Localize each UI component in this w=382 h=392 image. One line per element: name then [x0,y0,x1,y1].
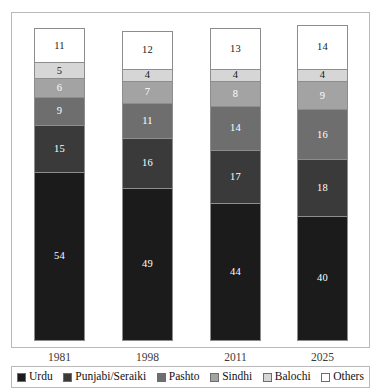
segment-value-label: 6 [57,83,62,94]
bar-segment-urdu[interactable]: 54 [34,172,85,341]
legend-swatch-icon [63,373,72,382]
legend-item-pashto[interactable]: Pashto [157,371,200,383]
segment-value-label: 5 [57,66,62,77]
bar-segment-pashto[interactable]: 16 [297,109,348,159]
bar-segment-others[interactable]: 13 [210,28,261,69]
segment-value-label: 11 [54,41,65,52]
bar-segment-balochi[interactable]: 4 [297,69,348,82]
x-axis-tick-label-2011: 2011 [206,351,266,363]
bar-segment-balochi[interactable]: 4 [210,69,261,82]
segment-value-label: 18 [317,183,328,194]
bar-segment-pashto[interactable]: 14 [210,106,261,150]
segment-value-label: 4 [320,70,325,81]
bar-segment-others[interactable]: 14 [297,25,348,69]
segment-value-label: 15 [54,144,65,155]
legend-swatch-icon [210,373,219,382]
scan-artifact [0,0,382,11]
legend-swatch-icon [321,373,330,382]
bar-segment-sindhi[interactable]: 8 [210,81,261,106]
segment-value-label: 11 [142,116,153,127]
bar-segment-punjabi-seraiki[interactable]: 18 [297,159,348,215]
legend-item-others[interactable]: Others [321,371,364,383]
legend-label: Punjabi/Seraiki [75,371,146,383]
legend-label: Balochi [275,371,311,383]
segment-value-label: 40 [317,273,328,284]
legend-item-balochi[interactable]: Balochi [263,371,311,383]
legend-item-punjabi-seraiki[interactable]: Punjabi/Seraiki [63,371,146,383]
segment-value-label: 17 [230,172,241,183]
segment-value-label: 49 [142,259,153,270]
segment-value-label: 16 [317,130,328,141]
segment-value-label: 4 [233,70,238,81]
bar-segment-balochi[interactable]: 4 [122,69,173,82]
segment-value-label: 54 [54,251,65,262]
segment-value-label: 12 [142,45,153,56]
segment-value-label: 13 [230,44,241,55]
legend-swatch-icon [157,373,166,382]
bar-2025[interactable]: 1449161840 [297,25,348,341]
legend-item-sindhi[interactable]: Sindhi [210,371,252,383]
segment-value-label: 4 [145,70,150,81]
legend-label: Others [333,371,364,383]
bar-segment-sindhi[interactable]: 9 [297,81,348,109]
legend-swatch-icon [17,373,26,382]
bar-segment-balochi[interactable]: 5 [34,62,85,78]
x-axis-tick-label-1998: 1998 [118,351,178,363]
bar-segment-pashto[interactable]: 9 [34,97,85,125]
bar-1998[interactable]: 1247111649 [122,31,173,341]
bar-segment-sindhi[interactable]: 6 [34,78,85,97]
plot-area: 115691554124711164913481417441449161840 [11,12,370,348]
bar-segment-pashto[interactable]: 11 [122,103,173,137]
segment-value-label: 8 [233,89,238,100]
bar-1981[interactable]: 115691554 [34,28,85,341]
bar-segment-punjabi-seraiki[interactable]: 16 [122,138,173,188]
legend-item-urdu[interactable]: Urdu [17,371,53,383]
segment-value-label: 44 [230,267,241,278]
bar-segment-punjabi-seraiki[interactable]: 17 [210,150,261,203]
legend-label: Pashto [169,371,200,383]
bar-segment-urdu[interactable]: 40 [297,216,348,341]
bar-segment-punjabi-seraiki[interactable]: 15 [34,125,85,172]
bar-segment-urdu[interactable]: 44 [210,203,261,341]
segment-value-label: 14 [230,123,241,134]
segment-value-label: 14 [317,42,328,53]
bar-segment-sindhi[interactable]: 7 [122,81,173,103]
segment-value-label: 16 [142,158,153,169]
segment-value-label: 9 [57,106,62,117]
chart-legend: UrduPunjabi/SeraikiPashtoSindhiBalochiOt… [11,366,370,388]
bar-2011[interactable]: 1348141744 [210,28,261,341]
x-axis-tick-label-1981: 1981 [30,351,90,363]
segment-value-label: 9 [320,91,325,102]
bar-segment-others[interactable]: 12 [122,31,173,69]
legend-swatch-icon [263,373,272,382]
x-axis-tick-label-2025: 2025 [293,351,353,363]
stacked-bar-chart-figure: 115691554124711164913481417441449161840 … [0,0,382,392]
legend-label: Sindhi [222,371,252,383]
segment-value-label: 7 [145,87,150,98]
legend-label: Urdu [29,371,53,383]
bar-segment-others[interactable]: 11 [34,28,85,62]
bar-segment-urdu[interactable]: 49 [122,188,173,341]
